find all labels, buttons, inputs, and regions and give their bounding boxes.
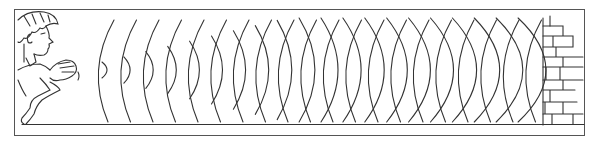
outgoing-wave-arc [121,20,137,122]
outgoing-wave-arc [211,20,227,122]
outgoing-wave-arc [143,20,159,122]
reflected-wave-arc [124,57,130,83]
outgoing-wave-arc [346,20,362,122]
reflected-wave-arc [212,36,223,104]
outgoing-wave-arc [166,20,182,122]
illustration-canvas [0,0,597,143]
outgoing-wave-arc [301,20,317,122]
reflected-wave-arc [102,62,107,78]
boy-figure [18,12,79,124]
outgoing-wave-arc [188,20,204,122]
outgoing-wave-arc [98,20,114,122]
reflected-wave-arc [255,26,268,115]
brick-wall [543,16,583,125]
reflected-wave-arc [387,18,408,122]
reflected-wave-arc [452,18,476,122]
reflected-wave-arc [168,46,177,93]
reflected-wave-arc [365,18,384,122]
reflected-wave-arc [277,20,292,119]
reflected-wave-arc [474,18,499,122]
reflected-wave-arc [431,18,454,122]
reflected-wave-arc [409,18,431,122]
frame [15,10,585,136]
reflected-wave-arc [190,41,200,99]
reflected-wave-arc [146,52,153,89]
outgoing-wave-arc [323,20,339,122]
outgoing-sound-waves [98,20,541,122]
echo-illustration [0,0,597,143]
